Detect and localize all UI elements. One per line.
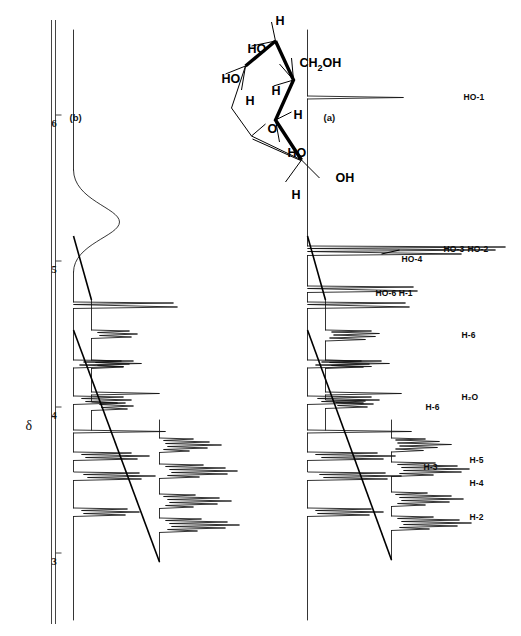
expansion-leader-b-low	[73, 236, 91, 300]
rotated-figure-stage: OH H O H HO CH2OH H H HO H HO	[0, 0, 521, 636]
axis-tick-5: 5	[51, 264, 56, 275]
axis-tick-4: 4	[51, 410, 56, 421]
panel-label-b: (b)	[69, 112, 81, 123]
axis-tick-6: 6	[51, 118, 56, 129]
axis-symbol-delta: δ	[25, 418, 32, 434]
delta-axis	[23, 0, 69, 636]
panel-label-a: (a)	[323, 112, 335, 123]
ho4-pointer	[261, 0, 521, 636]
figure-page: OH H O H HO CH2OH H H HO H HO	[0, 0, 521, 636]
axis-tick-3: 3	[51, 556, 56, 567]
